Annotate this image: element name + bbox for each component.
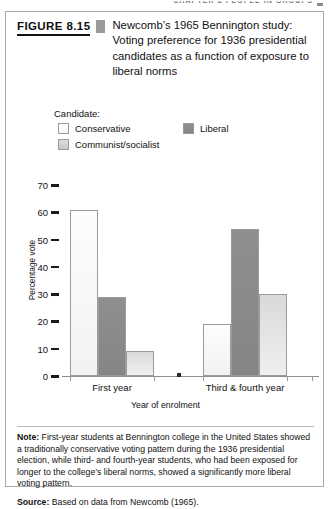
y-axis-tick — [51, 184, 59, 187]
chart-legend: Candidate: Conservative Liberal Communis… — [54, 108, 314, 155]
y-axis-tick — [51, 375, 59, 378]
source-label: Source: — [17, 497, 49, 507]
y-axis-tick-label: 30 — [37, 289, 48, 300]
bar-communist — [126, 351, 154, 376]
legend-item-communist: Communist/socialist — [58, 139, 159, 150]
running-header-text: CHAPTER 8 PEOPLE IN GROUPS — [173, 0, 313, 4]
y-axis-tick-label: 10 — [37, 343, 48, 354]
x-axis-centre-marker — [177, 373, 181, 377]
legend-swatch-liberal — [183, 123, 194, 134]
x-axis-tick — [154, 376, 155, 381]
y-axis-tick-label: 20 — [37, 316, 48, 327]
x-axis-line — [62, 376, 319, 377]
figure-box: FIGURE 8.15 Newcomb’s 1965 Bennington st… — [5, 11, 324, 487]
running-header-square-icon — [317, 1, 323, 6]
legend-item-liberal: Liberal — [183, 123, 229, 134]
legend-title: Candidate: — [54, 108, 314, 119]
y-axis-tick — [51, 348, 59, 351]
figure-title: Newcomb’s 1965 Bennington study: Voting … — [112, 18, 317, 79]
figure-footer: Note: First-year students at Bennington … — [17, 432, 316, 509]
x-axis-title: Year of enrolment — [6, 400, 325, 410]
y-axis-tick — [51, 211, 59, 214]
y-axis-tick-label: 60 — [37, 207, 48, 218]
x-axis-tick — [70, 376, 71, 381]
bar-liberal — [231, 229, 259, 376]
x-axis-group-label: First year — [92, 382, 132, 393]
x-axis-tick — [203, 376, 204, 381]
y-axis-tick-label: 50 — [37, 234, 48, 245]
legend-label-conservative: Conservative — [75, 123, 130, 134]
figure-separator-block — [96, 20, 105, 33]
legend-swatch-communist — [58, 139, 69, 150]
figure-caption: FIGURE 8.15 Newcomb’s 1965 Bennington st… — [17, 20, 317, 79]
legend-swatch-conservative — [58, 123, 69, 134]
figure-source: Source: Based on data from Newcomb (1965… — [17, 497, 316, 509]
y-axis-tick — [51, 293, 59, 296]
y-axis-tick — [51, 266, 59, 269]
bar-communist — [259, 294, 287, 376]
note-body: First-year students at Bennington colleg… — [17, 432, 310, 488]
y-axis-tick-label: 40 — [37, 261, 48, 272]
source-body: Based on data from Newcomb (1965). — [49, 497, 198, 507]
y-axis-tick — [51, 239, 59, 242]
x-axis-tick — [287, 376, 288, 381]
legend-label-communist: Communist/socialist — [75, 139, 159, 150]
x-axis-group-label: Third & fourth year — [206, 382, 285, 393]
plot-area: 010203040506070 — [62, 185, 312, 376]
bar-liberal — [98, 297, 126, 376]
y-axis-tick-label: 0 — [43, 371, 48, 382]
note-divider — [17, 426, 314, 427]
y-axis-tick-label: 70 — [37, 180, 48, 191]
legend-items: Conservative Liberal Communist/socialist — [54, 123, 314, 155]
bar-conservative — [70, 210, 98, 376]
figure-note: Note: First-year students at Bennington … — [17, 432, 316, 490]
y-axis-title: Percentage vote — [27, 215, 37, 325]
figure-number: FIGURE 8.15 — [17, 20, 90, 36]
note-label: Note: — [17, 432, 39, 442]
legend-item-conservative: Conservative — [58, 123, 130, 134]
y-axis-tick — [51, 320, 59, 323]
bar-chart: Percentage vote 010203040506070 First ye… — [6, 167, 325, 422]
legend-label-liberal: Liberal — [200, 123, 229, 134]
running-header: CHAPTER 8 PEOPLE IN GROUPS — [0, 0, 331, 9]
x-axis-tick — [312, 376, 313, 381]
bar-conservative — [203, 324, 231, 376]
